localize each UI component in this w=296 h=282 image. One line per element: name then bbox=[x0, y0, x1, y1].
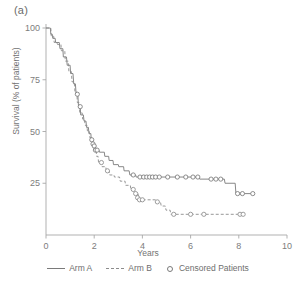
chart-legend: Arm A Arm B Censored Patients bbox=[0, 263, 296, 273]
legend-item-arm-b: Arm B bbox=[106, 263, 152, 273]
svg-text:100: 100 bbox=[25, 23, 40, 33]
censored-marker bbox=[191, 175, 195, 179]
censored-marker bbox=[99, 160, 103, 164]
censored-marker bbox=[172, 212, 176, 216]
axes bbox=[46, 24, 287, 235]
censored-marker bbox=[134, 192, 138, 196]
censored-marker bbox=[184, 175, 188, 179]
svg-text:75: 75 bbox=[30, 75, 40, 85]
censored-marker bbox=[140, 198, 144, 202]
censored-marker bbox=[189, 212, 193, 216]
censored-marker bbox=[90, 138, 94, 142]
survival-chart-figure: (a) Survival (% of patients) 255075100 0… bbox=[0, 0, 296, 282]
censored-marker bbox=[219, 177, 223, 181]
series-line-arm-b bbox=[46, 28, 244, 214]
censored-marker bbox=[95, 148, 99, 152]
data-series bbox=[46, 28, 254, 214]
svg-text:50: 50 bbox=[30, 127, 40, 137]
censored-marker bbox=[131, 173, 135, 177]
dashed-line-icon bbox=[106, 265, 124, 272]
censored-marker bbox=[240, 192, 244, 196]
solid-line-icon bbox=[47, 265, 65, 272]
censored-marker bbox=[196, 175, 200, 179]
series-line-arm-a bbox=[46, 28, 254, 194]
censored-marker bbox=[241, 212, 245, 216]
censored-marker bbox=[175, 175, 179, 179]
legend-item-censored: Censored Patients bbox=[166, 263, 249, 273]
legend-item-arm-a: Arm A bbox=[47, 263, 92, 273]
svg-text:25: 25 bbox=[30, 178, 40, 188]
censored-marker bbox=[155, 200, 159, 204]
censored-marker bbox=[202, 212, 206, 216]
x-axis-label: Years bbox=[0, 248, 296, 258]
censored-marker bbox=[235, 192, 239, 196]
censored-marker bbox=[78, 105, 82, 109]
y-axis-ticks: 255075100 bbox=[25, 23, 46, 188]
circle-marker-icon bbox=[166, 265, 175, 272]
censored-marker bbox=[251, 192, 255, 196]
censored-markers bbox=[75, 92, 255, 216]
kaplan-meier-plot: 255075100 0246810 bbox=[0, 0, 296, 282]
censored-marker bbox=[131, 187, 135, 191]
legend-label-arm-a: Arm A bbox=[69, 263, 92, 273]
censored-marker bbox=[209, 177, 213, 181]
censored-marker bbox=[75, 92, 79, 96]
censored-marker bbox=[214, 177, 218, 181]
censored-marker bbox=[166, 175, 170, 179]
censored-marker bbox=[157, 175, 161, 179]
censored-marker bbox=[92, 144, 96, 148]
censored-marker bbox=[105, 169, 109, 173]
legend-label-arm-b: Arm B bbox=[128, 263, 152, 273]
legend-label-censored: Censored Patients bbox=[179, 263, 249, 273]
